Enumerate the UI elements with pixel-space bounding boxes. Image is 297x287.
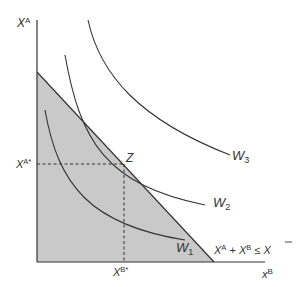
constraint-label: XA + XB ≤ X: [213, 243, 271, 256]
w3-label: W3: [232, 148, 249, 165]
point-z-label: Z: [125, 151, 134, 165]
x-a-star-label: XA*: [15, 157, 31, 170]
x-b-star-label: XB*: [112, 265, 128, 278]
welfare-diagram: XA xB XA* XB* Z W3 W2 W1 XA + XB ≤ X: [0, 0, 297, 287]
indifference-curve-w3: [88, 20, 230, 155]
w2-label: W2: [213, 195, 230, 212]
x-axis-label: xB: [261, 267, 273, 280]
y-axis-label: XA: [16, 16, 31, 30]
